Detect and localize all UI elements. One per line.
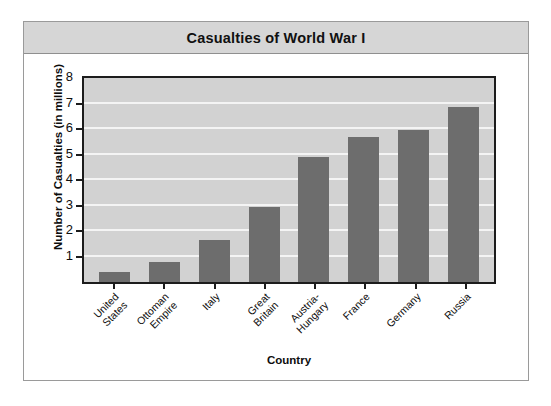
chart-page: Casualties of World War I Number of Casu…: [0, 0, 551, 406]
x-axis-label-slot: Germany: [390, 288, 440, 350]
plot-area: [82, 76, 496, 284]
bar-italy: [199, 240, 230, 282]
x-axis-label-slot: OttomanEmpire: [138, 288, 188, 350]
x-axis-label-austria-hungary: Austria-Hungary: [286, 291, 330, 335]
page-title: Casualties of World War I: [186, 30, 365, 46]
chart-card: Casualties of World War I Number of Casu…: [23, 21, 529, 381]
x-axis-label-france: France: [341, 291, 372, 322]
chart-body: Number of Casualties (in millions) 12345…: [24, 55, 528, 380]
x-axis-label-united-states: UnitedStates: [92, 291, 130, 329]
bar-series: [84, 78, 494, 282]
y-axis-tick-label: 1: [66, 248, 73, 263]
bar-slot: [239, 78, 289, 282]
y-axis-tick-label: 2: [66, 222, 73, 237]
bar-slot: [389, 78, 439, 282]
x-axis-labels: UnitedStatesOttomanEmpireItalyGreatBrita…: [82, 288, 496, 350]
x-axis-label-germany: Germany: [384, 291, 423, 330]
x-axis-label-slot: UnitedStates: [88, 288, 138, 350]
x-axis-title: Country: [82, 354, 496, 366]
x-axis-label-slot: GreatBritain: [239, 288, 289, 350]
y-axis-tick-label: 3: [66, 197, 73, 212]
x-axis-label-slot: Austria-Hungary: [289, 288, 339, 350]
bar-france: [348, 137, 379, 282]
bar-ottoman-empire: [149, 262, 180, 282]
bar-slot: [339, 78, 389, 282]
x-axis-label-great-britain: GreatBritain: [243, 291, 280, 328]
chart-title-band: Casualties of World War I: [24, 22, 528, 54]
bar-austria-hungary: [298, 157, 329, 282]
bar-russia: [448, 107, 479, 282]
bar-slot: [289, 78, 339, 282]
x-axis-label-slot: Italy: [189, 288, 239, 350]
bar-slot: [90, 78, 140, 282]
y-axis-tick-label: 5: [66, 146, 73, 161]
y-axis-tick-label: 6: [66, 120, 73, 135]
bar-germany: [398, 130, 429, 282]
x-axis-label-russia: Russia: [442, 291, 473, 322]
y-axis-tick-label: 8: [66, 69, 73, 84]
bar-great-britain: [249, 207, 280, 282]
x-axis-label-ottoman-empire: OttomanEmpire: [135, 291, 180, 336]
y-axis-tick-label: 7: [66, 95, 73, 110]
y-axis-ticks: 12345678: [24, 76, 82, 284]
bar-slot: [140, 78, 190, 282]
bar-united-states: [99, 272, 130, 282]
bar-slot: [438, 78, 488, 282]
y-axis-tick-label: 4: [66, 171, 73, 186]
bar-slot: [190, 78, 240, 282]
x-axis-label-italy: Italy: [200, 291, 222, 313]
x-axis-label-slot: France: [339, 288, 389, 350]
x-axis-label-slot: Russia: [440, 288, 490, 350]
